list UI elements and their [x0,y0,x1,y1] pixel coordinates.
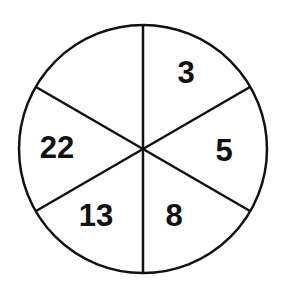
sector-label-bottom-left: 13 [79,198,113,233]
sector-label-left: 22 [40,130,74,165]
sector-label-top-right: 3 [177,55,194,90]
number-wheel: 3 5 8 13 22 [0,0,281,291]
sector-label-bottom-right: 8 [165,198,182,233]
sector-label-right: 5 [215,133,232,168]
